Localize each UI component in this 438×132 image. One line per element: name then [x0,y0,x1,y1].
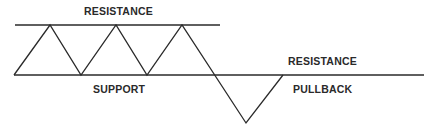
price-zigzag [14,25,283,123]
right-resistance-label: RESISTANCE [288,55,357,67]
top-resistance-label: RESISTANCE [84,5,153,17]
pullback-label: PULLBACK [293,83,352,95]
support-label: SUPPORT [93,83,145,95]
support-resistance-diagram [0,0,438,132]
